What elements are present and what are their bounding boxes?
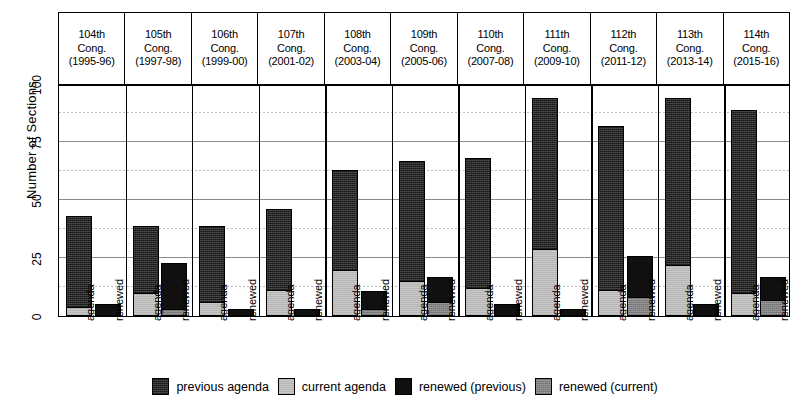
congress-header-band: 104thCong.(1995-96)105thCong.(1997-98)10… (58, 12, 790, 85)
congress-header-cell: 109thCong.(2005-06) (391, 13, 457, 84)
x-tick-renewed: renewed (379, 265, 392, 321)
congress-header-line: Cong. (210, 42, 238, 55)
congress-header-cell: 110thCong.(2007-08) (458, 13, 524, 84)
congress-header-line: (1995-96) (69, 55, 115, 68)
congress-header-cell: 106thCong.(1999-00) (192, 13, 258, 84)
x-tick-agenda: agenda (217, 265, 230, 321)
panel-separator (658, 86, 659, 316)
congress-header-cell: 114thCong.(2015-16) (724, 13, 789, 84)
congress-header-cell: 113thCong.(2013-14) (657, 13, 723, 84)
chart-legend: previous agendacurrent agendarenewed (pr… (0, 378, 810, 395)
x-tick-agenda: agenda (550, 265, 563, 321)
legend-item[interactable]: previous agenda (152, 378, 268, 395)
congress-header-line: (1999-00) (202, 55, 248, 68)
y-tick-50: 50 (30, 184, 44, 218)
y-tick-25: 25 (30, 242, 44, 276)
congress-header-line: Cong. (144, 42, 172, 55)
congress-header-line: 107th (278, 28, 305, 41)
legend-item[interactable]: current agenda (278, 378, 386, 395)
congress-header-line: (2005-06) (401, 55, 447, 68)
x-tick-renewed: renewed (645, 265, 658, 321)
congress-header-line: 113th (677, 28, 703, 41)
x-tick-renewed: renewed (578, 265, 591, 321)
congress-header-line: (2009-10) (534, 55, 580, 68)
x-tick-agenda: agenda (84, 265, 97, 321)
congress-header-cell: 105thCong.(1997-98) (125, 13, 191, 84)
x-tick-agenda: agenda (483, 265, 496, 321)
bar-segment-prev (532, 98, 558, 249)
legend-item[interactable]: renewed (current) (535, 378, 658, 395)
legend-swatch-icon (278, 378, 295, 395)
legend-item[interactable]: renewed (previous) (395, 378, 526, 395)
congress-header-line: Cong. (543, 42, 571, 55)
congress-header-cell: 112thCong.(2011-12) (591, 13, 657, 84)
congress-header-line: (2007-08) (467, 55, 513, 68)
x-tick-renewed: renewed (512, 265, 525, 321)
congress-header-line: Cong. (343, 42, 371, 55)
legend-label: current agenda (302, 380, 386, 394)
congress-header-line: Cong. (410, 42, 438, 55)
congress-header-line: (2011-12) (601, 55, 646, 68)
legend-swatch-icon (535, 378, 552, 395)
panel-separator (458, 86, 459, 316)
congress-header-line: Cong. (609, 42, 637, 55)
bar-segment-prev (665, 98, 691, 265)
legend-swatch-icon (395, 378, 412, 395)
congress-header-line: 109th (411, 28, 438, 41)
x-tick-agenda: agenda (683, 265, 696, 321)
x-tick-agenda: agenda (284, 265, 297, 321)
x-tick-renewed: renewed (246, 265, 259, 321)
congress-header-line: Cong. (676, 42, 704, 55)
x-tick-agenda: agenda (616, 265, 629, 321)
congress-header-cell: 107thCong.(2001-02) (258, 13, 324, 84)
congress-header-line: (2003-04) (335, 55, 381, 68)
x-tick-agenda: agenda (417, 265, 430, 321)
x-tick-agenda: agenda (350, 265, 363, 321)
panel-separator (325, 86, 326, 316)
congress-header-line: 106th (211, 28, 238, 41)
congress-header-line: (1997-98) (135, 55, 181, 68)
x-tick-renewed: renewed (445, 265, 458, 321)
x-tick-agenda: agenda (749, 265, 762, 321)
congress-header-line: 108th (344, 28, 371, 41)
panel-separator (192, 86, 193, 316)
congress-header-cell: 111thCong.(2009-10) (524, 13, 590, 84)
congress-header-line: (2013-14) (667, 55, 713, 68)
bar-segment-prev (332, 170, 358, 270)
legend-swatch-icon (152, 378, 169, 395)
chart-figure: Number of Sections 0255075100 104thCong.… (0, 0, 810, 416)
x-tick-renewed: renewed (778, 265, 791, 321)
congress-header-line: 111th (544, 28, 569, 41)
y-tick-75: 75 (30, 126, 44, 160)
x-tick-renewed: renewed (312, 265, 325, 321)
y-tick-100: 100 (30, 68, 44, 102)
x-tick-renewed: renewed (711, 265, 724, 321)
congress-header-line: 112th (610, 28, 636, 41)
x-tick-agenda: agenda (151, 265, 164, 321)
congress-header-line: 105th (145, 28, 172, 41)
x-tick-renewed: renewed (113, 265, 126, 321)
panel-separator (724, 86, 725, 316)
congress-header-line: Cong. (476, 42, 504, 55)
legend-label: renewed (current) (559, 380, 658, 394)
panel-separator (591, 86, 592, 316)
congress-header-line: 104th (78, 28, 105, 41)
panel-separator (525, 86, 526, 316)
x-tick-renewed: renewed (179, 265, 192, 321)
legend-label: previous agenda (176, 380, 268, 394)
congress-header-cell: 104thCong.(1995-96) (59, 13, 125, 84)
congress-header-line: Cong. (277, 42, 305, 55)
bar-segment-prev (399, 161, 425, 282)
congress-header-cell: 108thCong.(2003-04) (325, 13, 391, 84)
congress-header-line: 110th (478, 28, 504, 41)
congress-header-line: (2001-02) (268, 55, 314, 68)
congress-header-line: Cong. (742, 42, 770, 55)
legend-label: renewed (previous) (419, 380, 526, 394)
congress-header-line: (2015-16) (733, 55, 779, 68)
y-tick-0: 0 (30, 300, 44, 334)
congress-header-line: Cong. (78, 42, 106, 55)
congress-header-line: 114th (743, 28, 769, 41)
